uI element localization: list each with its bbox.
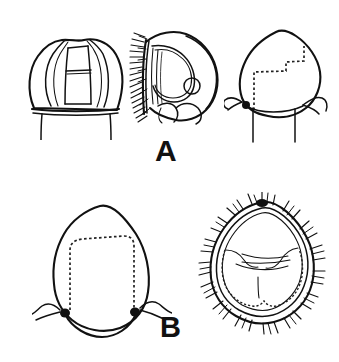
- figure-a2-lateral-spined: [128, 24, 226, 140]
- figure-b2-setose-capsule: [196, 192, 328, 338]
- figure-plate: A: [0, 0, 339, 362]
- panel-label-b: B: [160, 313, 181, 342]
- figure-a1-dorsal-shield: [18, 24, 136, 140]
- figure-b1-capsule-dashed: [32, 194, 172, 340]
- figure-a3-ventral-dashed: [224, 24, 339, 144]
- panel-label-a: A: [155, 136, 177, 166]
